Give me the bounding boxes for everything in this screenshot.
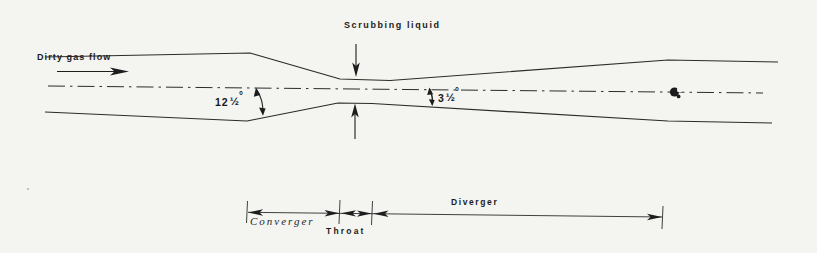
dimension-tick-diverger-end	[662, 206, 663, 229]
converger-section-label: Converger	[250, 215, 315, 227]
diverger-angle-value: 3	[438, 92, 445, 104]
converger-angle-fraction: ½	[230, 95, 239, 107]
degree-symbol: °	[455, 86, 459, 97]
dimension-tick-throat-end	[372, 201, 373, 225]
dimension-tick-converger-start	[247, 201, 248, 223]
converger-angle-value: 12	[215, 96, 229, 108]
diagram-linework	[0, 0, 817, 253]
scrubbing-liquid-label: Scrubbing liquid	[344, 20, 441, 30]
diverger-angle-label: 3½°	[438, 91, 459, 104]
liquid-inlet-arrow-top-icon	[352, 44, 360, 77]
diverger-section-label: Diverger	[451, 197, 498, 207]
converger-angle-arc-icon	[254, 88, 266, 116]
flow-centerline	[48, 86, 763, 93]
venturi-scrubber-diagram: Dirty gas flow Scrubbing liquid 12½° 3½°…	[0, 0, 817, 253]
gas-flow-arrow-icon	[57, 68, 129, 76]
dirty-gas-flow-label: Dirty gas flow	[37, 52, 111, 62]
throat-section-label: Throat	[326, 226, 366, 236]
pipe-bottom-wall	[45, 103, 772, 123]
diverger-angle-arc-icon	[427, 88, 435, 107]
paper-speck	[27, 188, 29, 190]
converger-angle-label: 12½°	[215, 95, 243, 108]
liquid-inlet-arrow-bottom-icon	[351, 104, 359, 140]
degree-symbol: °	[239, 90, 243, 101]
pipe-top-wall	[45, 53, 778, 81]
dimension-tick-throat-start	[339, 200, 340, 224]
diverger-angle-fraction: ½	[446, 91, 455, 103]
ink-blot	[670, 87, 683, 98]
